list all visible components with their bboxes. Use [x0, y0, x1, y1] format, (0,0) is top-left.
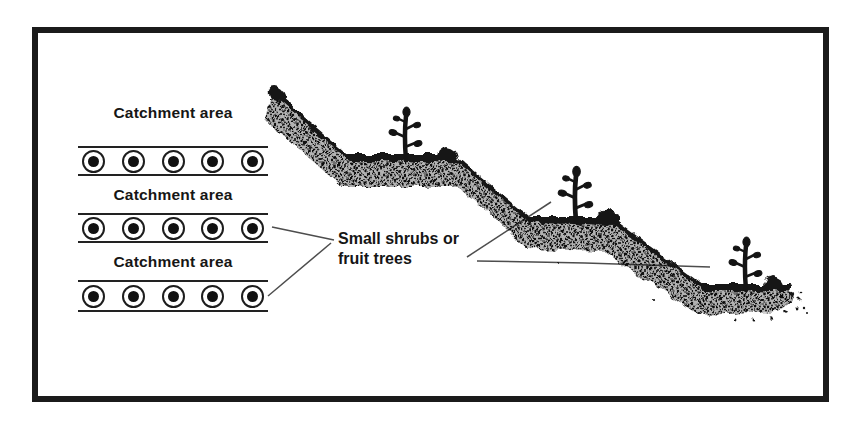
figure-canvas: Catchment area Catchment area Catchment … [0, 0, 863, 424]
leader-line-row3 [268, 243, 331, 296]
shrub-icon [728, 237, 762, 290]
slope-illustration [0, 0, 863, 424]
stone-icon [436, 146, 459, 158]
leader-line-row2 [272, 227, 334, 240]
slope-top-edge [272, 92, 790, 289]
stone-icon [763, 276, 786, 288]
stone-icon [597, 207, 617, 220]
shrub-icon [558, 166, 594, 222]
hillside [265, 83, 809, 322]
shrub-icon [388, 107, 422, 160]
stipple-band [265, 92, 794, 315]
